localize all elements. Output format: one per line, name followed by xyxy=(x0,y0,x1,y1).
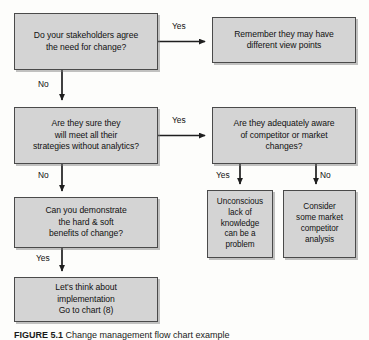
node-unconscious-lack-of-knowledge: Unconscious lack of knowledge can be a p… xyxy=(207,190,273,258)
node-benefits-label: Can you demonstrate the hard & soft bene… xyxy=(45,205,126,239)
edge-label-no-strategies: No xyxy=(38,170,49,180)
node-strategies-without-analytics: Are they sure they will meet all their s… xyxy=(14,107,158,164)
node-stakeholders-agree: Do your stakeholders agree the need for … xyxy=(14,13,158,70)
edge-label-yes-strategies: Yes xyxy=(172,115,186,125)
edge-label-no-stakeholders: No xyxy=(38,79,49,89)
node-viewpoints-label: Remember they may have different view po… xyxy=(234,29,334,52)
node-unconscious-label: Unconscious lack of knowledge can be a p… xyxy=(217,197,263,251)
node-adequately-aware: Are they adequately aware of competitor … xyxy=(212,107,356,164)
node-stakeholders-label: Do your stakeholders agree the need for … xyxy=(34,30,138,53)
edge-label-yes-benefits: Yes xyxy=(36,253,50,263)
node-consider-label: Consider some market competitor analysis xyxy=(296,202,343,245)
node-remember-view-points: Remember they may have different view po… xyxy=(212,17,356,63)
node-implement-label: Let's think about implementation Go to c… xyxy=(55,282,116,316)
node-strategies-label: Are they sure they will meet all their s… xyxy=(33,118,139,152)
edge-label-no-aware: No xyxy=(320,170,331,180)
node-consider-market-analysis: Consider some market competitor analysis xyxy=(283,190,356,258)
figure-caption-text: Change management flow chart example xyxy=(66,330,230,340)
node-aware-label: Are they adequately aware of competitor … xyxy=(234,118,335,152)
node-lets-think-about-implementation: Let's think about implementation Go to c… xyxy=(14,277,158,322)
node-demonstrate-benefits: Can you demonstrate the hard & soft bene… xyxy=(14,197,158,248)
figure-caption-number: FIGURE 5.1 xyxy=(14,330,63,340)
edge-label-yes-stakeholders: Yes xyxy=(172,21,186,31)
figure-caption: FIGURE 5.1 Change management flow chart … xyxy=(14,330,230,340)
edge-label-yes-aware: Yes xyxy=(216,170,230,180)
